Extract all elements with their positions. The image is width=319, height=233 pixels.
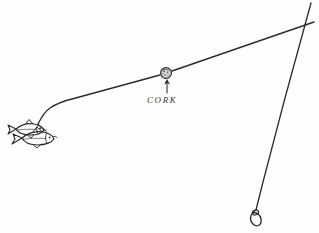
sketch-canvas: CORK: [0, 0, 319, 233]
baitfish-pair: [8, 120, 57, 149]
swivel-loop: [251, 209, 262, 226]
cork-float: [161, 68, 172, 79]
up-arrow-icon: [164, 79, 170, 93]
main-fishing-line: [38, 22, 314, 124]
baitfish-lower: [12, 127, 57, 148]
rod-leader-line: [256, 3, 311, 210]
cork-label: CORK: [147, 95, 177, 105]
fishing-rig-drawing: [0, 0, 319, 233]
